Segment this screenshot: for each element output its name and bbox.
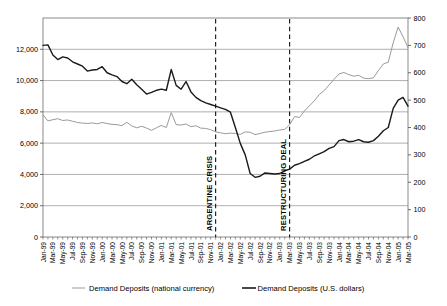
series-line-us-dollars: [43, 45, 408, 177]
annotation-label-argentine-crisis: ARGENTINE CRISIS: [205, 156, 214, 231]
line-chart: 02,0004,0006,0008,00010,00012,0000100200…: [0, 0, 447, 306]
annotations: ARGENTINE CRISISRESTRUCTURING DEAL: [205, 19, 289, 237]
x-axis-tick-label: May-04: [355, 242, 363, 264]
x-axis-tick-label: Jul-04: [365, 242, 372, 260]
left-axis-tick-label: 12,000: [16, 45, 38, 54]
x-axis-tick-label: Jan-05: [395, 242, 402, 262]
x-axis-tick-label: Nov-04: [385, 242, 392, 264]
plot-frame: [43, 18, 408, 237]
x-axis-tick-label: Nov-00: [148, 242, 155, 264]
x-axis-tick-label: Jan-04: [336, 242, 343, 262]
x-axis-tick-label: Sep-99: [79, 242, 87, 264]
right-axis-tick-label: 300: [414, 150, 426, 159]
x-axis-tick-label: Nov-02: [266, 242, 273, 264]
left-axis: 02,0004,0006,0008,00010,00012,000: [16, 45, 43, 242]
right-axis-tick-label: 500: [414, 96, 426, 105]
right-axis-tick-label: 0: [414, 233, 418, 242]
left-axis-tick-label: 10,000: [16, 76, 38, 85]
right-axis-tick-label: 700: [414, 41, 426, 50]
x-axis-tick-label: Sep-04: [375, 242, 383, 264]
x-axis-tick-label: Jan-99: [40, 242, 47, 262]
x-axis-tick-label: Jan-03: [276, 242, 283, 262]
x-axis-tick-label: Sep-00: [138, 242, 146, 264]
x-axis-tick-label: Sep-02: [257, 242, 265, 264]
x-axis-tick-label: May-03: [296, 242, 304, 264]
x-axis-tick-label: Jul-99: [69, 242, 76, 260]
x-axis-tick-label: Nov-99: [89, 242, 96, 264]
x-axis-tick-label: Mar-02: [227, 242, 234, 263]
x-axis-tick-label: Sep-03: [316, 242, 324, 264]
right-axis-tick-label: 100: [414, 205, 426, 214]
gridlines: [43, 49, 408, 205]
left-axis-tick-label: 2,000: [20, 201, 38, 210]
x-axis-tick-label: Mar-03: [286, 242, 293, 263]
x-axis-tick-label: May-01: [178, 242, 186, 264]
x-axis-tick-label: Mar-05: [405, 242, 412, 263]
x-axis-tick-label: Jul-02: [247, 242, 254, 260]
right-axis-tick-label: 200: [414, 178, 426, 187]
chart-figure: 02,0004,0006,0008,00010,00012,0000100200…: [0, 0, 447, 306]
x-axis-tick-label: Jan-02: [217, 242, 224, 262]
left-axis-tick-label: 4,000: [20, 170, 38, 179]
x-axis-tick-label: Jul-03: [306, 242, 313, 260]
left-axis-tick-label: 0: [34, 233, 38, 242]
x-axis-tick-label: Nov-01: [207, 242, 214, 264]
x-axis-tick-label: Mar-99: [49, 242, 56, 263]
chart-legend: Demand Deposits (national currency)Deman…: [72, 284, 365, 293]
right-axis: 0100200300400500600700800: [408, 14, 426, 242]
x-axis: Jan-99Mar-99May-99Jul-99Sep-99Nov-99Jan-…: [40, 237, 412, 264]
x-axis-tick-label: May-00: [119, 242, 127, 264]
x-axis-tick-label: Mar-00: [109, 242, 116, 263]
left-axis-tick-label: 6,000: [20, 139, 38, 148]
right-axis-tick-label: 800: [414, 14, 426, 23]
right-axis-tick-label: 600: [414, 68, 426, 77]
x-axis-tick-label: Sep-01: [197, 242, 205, 264]
x-axis-tick-label: Jul-00: [128, 242, 135, 260]
x-axis-tick-label: Nov-03: [326, 242, 333, 264]
annotation-label-restructuring-deal: RESTRUCTURING DEAL: [279, 139, 288, 231]
x-axis-tick-label: Mar-04: [345, 242, 352, 263]
legend-label-0: Demand Deposits (national currency): [89, 284, 215, 293]
right-axis-tick-label: 400: [414, 123, 426, 132]
x-axis-tick-label: Jan-01: [158, 242, 165, 262]
x-axis-tick-label: May-99: [59, 242, 67, 264]
x-axis-tick-label: Mar-01: [168, 242, 175, 263]
x-axis-tick-label: Jan-00: [99, 242, 106, 262]
left-axis-tick-label: 8,000: [20, 107, 38, 116]
legend-label-1: Demand Deposits (U.S. dollars): [258, 284, 365, 293]
x-axis-tick-label: Jul-01: [188, 242, 195, 260]
x-axis-tick-label: May-02: [237, 242, 245, 264]
